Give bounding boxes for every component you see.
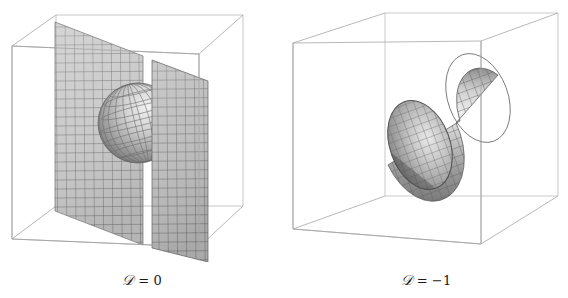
caption-left-value: 0 [153,273,161,288]
scene-left-svg [0,0,284,262]
scene-left [0,0,284,262]
mesh-cylinder [319,21,568,259]
caption-left: 𝒟 = 0 [0,262,284,298]
figure-root: 𝒟 = 0 [0,0,568,298]
scene-right [284,0,568,262]
caption-right-relation: = [414,273,432,288]
caption-right-symbol: 𝒟 [401,272,414,289]
panel-left: 𝒟 = 0 [0,0,284,298]
caption-right: 𝒟 = −1 [284,262,568,298]
panel-right: 𝒟 = −1 [284,0,568,298]
scene-right-svg [284,0,568,262]
caption-left-relation: = [135,273,153,288]
caption-right-value: −1 [432,273,452,288]
mesh-plane-front [152,60,208,262]
caption-left-symbol: 𝒟 [122,272,135,289]
